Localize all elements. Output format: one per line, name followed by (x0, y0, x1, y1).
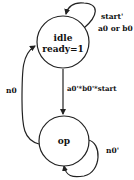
state-op-name: op (58, 136, 70, 146)
edge-op-to-idle (22, 46, 39, 144)
label-idle-self-loop-1: start' (101, 12, 123, 21)
state-idle-name: idle (54, 33, 73, 43)
label-op-to-idle: n0 (6, 86, 17, 95)
label-idle-to-op: a0'*b0'*start (67, 84, 117, 93)
label-idle-self-loop-2: a0 or b0 (98, 24, 133, 33)
state-diagram: idle ready=1 op start' a0 or b0 a0'*b0'*… (0, 0, 134, 180)
state-idle-output: ready=1 (42, 44, 84, 54)
label-op-self-loop: n0' (106, 146, 119, 155)
